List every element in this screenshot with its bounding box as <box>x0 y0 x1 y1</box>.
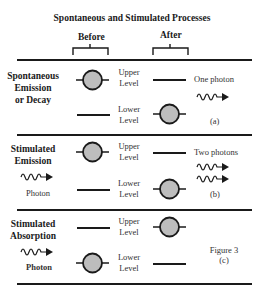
before-bracket <box>72 44 110 56</box>
outgoing-label-a: One photon <box>194 74 234 84</box>
atom-upper-before-a <box>76 69 109 91</box>
panel-tag-a: (a) <box>210 116 219 126</box>
photon-wave-icon <box>196 174 230 184</box>
figure-label: Figure 3 (c) <box>202 245 246 265</box>
atom-lower-after-a <box>153 103 186 125</box>
upper-level-after-a <box>153 79 186 81</box>
divider-bottom <box>17 283 252 285</box>
photon-wave-icon <box>20 247 54 257</box>
lower-level-label-b: LowerLevel <box>112 178 146 200</box>
column-before-label: Before <box>78 32 105 42</box>
process-label-b: Stimulated Emission <box>4 143 62 167</box>
upper-level-label-c: UpperLevel <box>112 216 146 238</box>
divider-ab <box>17 134 252 136</box>
divider-bc <box>17 209 252 211</box>
column-after-label: After <box>160 30 182 40</box>
divider-top <box>17 59 252 61</box>
diagram-title: Spontaneous and Stimulated Processes <box>0 13 264 23</box>
atom-lower-after-b <box>153 178 186 200</box>
lower-level-label-a: LowerLevel <box>112 104 146 126</box>
photon-wave-icon <box>20 172 54 182</box>
photon-wave-icon <box>196 162 230 172</box>
lower-level-label-c: LowerLevel <box>112 252 146 274</box>
incoming-photon-label-c: Photon <box>26 262 52 272</box>
lower-level-before-a <box>77 114 110 116</box>
process-label-c: Stimulated Absorption <box>4 218 62 242</box>
upper-level-after-b <box>153 152 186 154</box>
lower-level-after-c <box>153 263 186 265</box>
after-bracket <box>152 44 190 56</box>
atom-upper-after-c <box>153 216 186 238</box>
incoming-photon-label-b: Photon <box>26 188 50 198</box>
panel-tag-b: (b) <box>210 189 220 199</box>
upper-level-label-a: UpperLevel <box>112 67 146 89</box>
outgoing-label-b: Two photons <box>194 147 238 157</box>
atom-upper-before-b <box>76 141 109 163</box>
process-label-a: Spontaneous Emission or Decay <box>4 70 62 106</box>
upper-level-before-c <box>77 227 110 229</box>
lower-level-before-b <box>77 189 110 191</box>
upper-level-label-b: UpperLevel <box>112 141 146 163</box>
atom-lower-before-c <box>76 252 109 274</box>
photon-wave-icon <box>196 92 230 102</box>
